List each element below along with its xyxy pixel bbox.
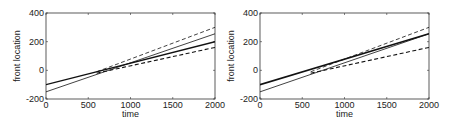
y-tick-label: 0 [253,65,258,75]
series-line [46,42,215,85]
x-tick-label: 2000 [419,100,439,110]
chart-panel-1: 0500100015002000-2000200400timefront loc… [12,8,225,119]
y-tick-label: 200 [29,37,44,47]
x-tick-label: 0 [257,100,262,110]
y-tick-label: 400 [243,8,258,18]
x-tick-label: 1500 [377,100,397,110]
y-axis-label: front location [226,30,236,82]
series-line [311,27,429,71]
x-tick-label: 2000 [205,100,225,110]
series-line [97,47,215,73]
chart-panel-2: 0500100015002000-2000200400timefront loc… [226,8,439,119]
y-tick-label: 0 [39,65,44,75]
axes-frame [46,13,215,99]
y-tick-label: -200 [240,94,258,104]
series-line [260,34,429,92]
x-tick-label: 500 [81,100,96,110]
y-axis-label: front location [12,30,22,82]
x-axis-label: time [336,109,353,119]
figure: 0500100015002000-2000200400timefront loc… [0,0,454,121]
x-tick-label: 500 [295,100,310,110]
y-tick-label: -200 [26,94,44,104]
y-tick-label: 400 [29,8,44,18]
x-axis-label: time [122,109,139,119]
x-tick-label: 1500 [163,100,183,110]
series-line [97,27,215,71]
y-tick-label: 200 [243,37,258,47]
x-tick-label: 0 [43,100,48,110]
axes-frame [260,13,429,99]
